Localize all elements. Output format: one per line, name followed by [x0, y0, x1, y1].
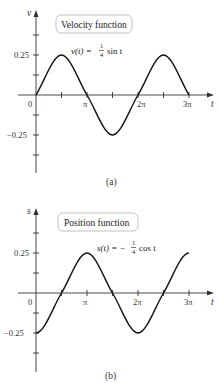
chart-title: Velocity function: [61, 20, 127, 30]
y-tick-label-pos: 0.25: [14, 248, 29, 258]
x-axis-arrow-icon: [207, 93, 214, 98]
x-tick-label-2pi: 2π: [133, 297, 142, 307]
y-tick-label-pos: 0.25: [14, 50, 29, 60]
chart-velocity: v t 0 π 2π 3π 0.25 −0.25 Velocity functi…: [7, 8, 214, 188]
x-tick-label-2pi: 2π: [137, 99, 146, 109]
x-axis-arrow-icon: [207, 291, 214, 296]
y-axis-label: v: [27, 8, 32, 18]
equation-rhs: sin t: [107, 46, 123, 56]
figure: v t 0 π 2π 3π 0.25 −0.25 Velocity functi…: [0, 0, 221, 383]
equation-lhs: s(t) = −: [97, 243, 126, 253]
x-tick-label-3pi: 3π: [183, 99, 192, 109]
origin-label: 0: [28, 99, 32, 109]
y-axis-label: s: [27, 206, 31, 216]
x-axis-label: t: [211, 297, 214, 307]
equation-numerator: 1: [132, 239, 135, 246]
x-tick-label-3pi: 3π: [184, 297, 193, 307]
x-tick-label-pi: π: [83, 297, 88, 307]
y-tick-label-neg: −0.25: [4, 328, 24, 338]
x-tick-label-pi: π: [83, 99, 88, 109]
y-axis-arrow-icon: [34, 208, 39, 215]
caption: (a): [106, 177, 117, 188]
y-axis-arrow-icon: [34, 10, 39, 17]
equation-denominator: 4: [132, 248, 136, 255]
chart-title: Position function: [64, 218, 129, 228]
y-tick-label-neg: −0.25: [7, 130, 27, 140]
equation-lhs: v(t) =: [71, 46, 92, 56]
equation-rhs: cos t: [139, 243, 156, 253]
chart-position: s t 0 π 2π 3π 0.25 −0.25 Position functi…: [4, 206, 214, 382]
caption: (b): [105, 371, 116, 382]
equation-denominator: 4: [100, 51, 104, 58]
equation-numerator: 1: [100, 42, 103, 49]
x-axis-label: t: [211, 99, 214, 109]
origin-label: 0: [28, 297, 32, 307]
